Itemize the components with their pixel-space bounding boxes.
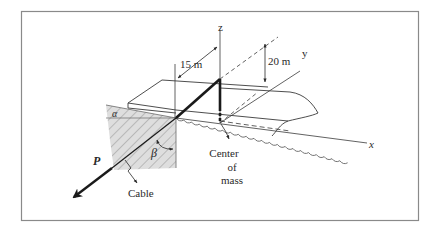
y-axis-label: y [302,47,308,59]
dashed-waterline [220,121,290,131]
com-pointer [221,124,229,139]
com-label-line1: Center [209,147,239,159]
dim-15m-label: 15 m [180,58,203,70]
axes [175,30,367,143]
com-label-line2: of [227,161,237,173]
alpha-label: α [112,108,118,119]
force-P-label: P [93,154,101,168]
beta-label: β [150,146,157,160]
x-axis-label: x [368,138,374,150]
com-label-line3: mass [221,174,243,186]
cable-label: Cable [128,187,154,199]
y-axis [220,71,300,123]
dashed-lower-ref [220,92,258,123]
ship-cable-diagram: z y x 15 m 20 m P α β Cable Center of ma… [0,0,439,232]
x-axis [176,118,367,143]
force-P-arrow [74,168,112,197]
z-axis-label: z [218,21,223,33]
waterline [173,118,351,164]
dim-20m-label: 20 m [268,55,291,67]
